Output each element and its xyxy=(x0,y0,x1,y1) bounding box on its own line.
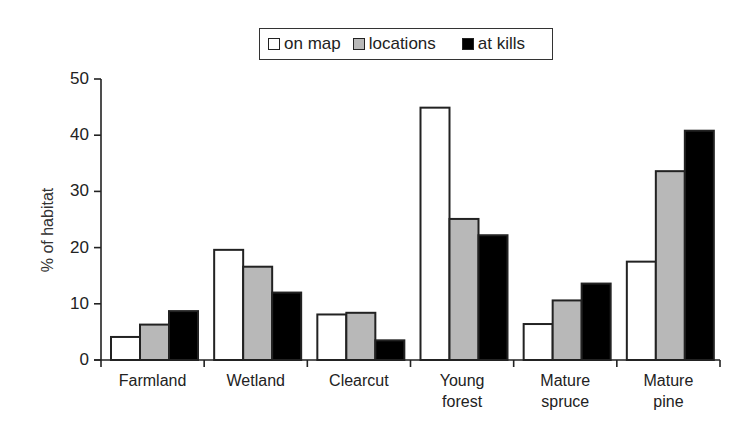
x-category-label: Maturepine xyxy=(613,370,723,412)
bar-locations-clearcut xyxy=(346,313,375,360)
bar-locations-mature-pine xyxy=(656,171,685,360)
y-tick-label: 0 xyxy=(49,350,89,370)
bar-at-kills-young-forest xyxy=(479,235,508,360)
bar-at-kills-mature-pine xyxy=(685,131,714,360)
y-tick-label: 50 xyxy=(49,69,89,89)
y-tick-label: 10 xyxy=(49,294,89,314)
bar-locations-mature-spruce xyxy=(553,300,582,360)
bar-on-map-mature-pine xyxy=(627,262,656,360)
bar-on-map-wetland xyxy=(214,250,243,360)
bar-at-kills-farmland xyxy=(169,311,198,360)
bar-locations-wetland xyxy=(243,267,272,360)
x-category-label: Wetland xyxy=(201,370,311,391)
bar-locations-young-forest xyxy=(450,219,479,360)
y-tick-label: 30 xyxy=(49,181,89,201)
bar-locations-farmland xyxy=(140,325,169,360)
y-tick-label: 20 xyxy=(49,238,89,258)
bar-at-kills-clearcut xyxy=(375,340,404,360)
bar-at-kills-wetland xyxy=(272,293,301,360)
x-category-label: Clearcut xyxy=(304,370,414,391)
bar-on-map-farmland xyxy=(111,337,140,360)
x-category-label: Farmland xyxy=(98,370,208,391)
bar-on-map-clearcut xyxy=(317,314,346,360)
bar-on-map-mature-spruce xyxy=(524,324,553,360)
bar-on-map-young-forest xyxy=(421,108,450,360)
y-tick-label: 40 xyxy=(49,125,89,145)
x-category-label: Maturespruce xyxy=(510,370,620,412)
bar-at-kills-mature-spruce xyxy=(582,284,611,360)
x-category-label: Youngforest xyxy=(407,370,517,412)
